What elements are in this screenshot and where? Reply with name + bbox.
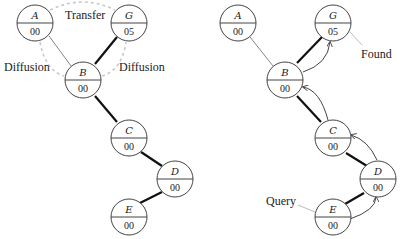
- node-label: D: [373, 166, 382, 177]
- node-a: A 00: [17, 5, 53, 41]
- node-value: 00: [30, 26, 40, 37]
- diffusion-right-label: Diffusion: [119, 60, 165, 74]
- diagram-canvas: A 00 G 05 B 00 C 00 D 00: [0, 0, 401, 239]
- node-value: 05: [124, 26, 134, 37]
- node-c: C 00: [315, 120, 351, 156]
- node-value: 00: [170, 182, 180, 193]
- node-label: C: [125, 125, 133, 136]
- node-e: E 00: [111, 199, 147, 235]
- edge-d-e: [345, 193, 364, 204]
- left-diagram: A 00 G 05 B 00 C 00 D 00: [4, 2, 193, 235]
- node-label: E: [328, 204, 337, 215]
- flow-arrow-d-c: [351, 135, 377, 160]
- node-d: D 00: [360, 161, 396, 197]
- node-value: 05: [328, 26, 338, 37]
- node-value: 00: [124, 220, 134, 231]
- node-e: E 00: [315, 199, 351, 235]
- edge-g-b: [297, 37, 322, 63]
- right-diagram: A 00 G 05 B 00 C 00 D 00: [220, 5, 396, 235]
- node-value: 00: [373, 182, 383, 193]
- node-label: C: [329, 125, 337, 136]
- edge-b-c: [95, 96, 117, 122]
- found-label: Found: [361, 47, 392, 61]
- flow-arrow-e-d: [350, 197, 376, 219]
- node-value: 00: [124, 141, 134, 152]
- node-value: 00: [78, 83, 88, 94]
- edge-a-b: [250, 37, 273, 66]
- node-label: A: [233, 10, 241, 21]
- node-g: G 05: [315, 5, 351, 41]
- edge-c-d: [141, 152, 162, 166]
- transfer-label: Transfer: [65, 8, 105, 22]
- node-label: G: [125, 10, 133, 21]
- found-leader-line: [350, 32, 362, 45]
- node-label: G: [329, 10, 337, 21]
- query-leader-line: [298, 205, 315, 212]
- edge-g-b: [95, 37, 117, 64]
- edge-b-c: [297, 96, 321, 122]
- node-value: 00: [233, 26, 243, 37]
- node-c: C 00: [111, 120, 147, 156]
- node-d: D 00: [157, 161, 193, 197]
- node-b: B 00: [267, 62, 303, 98]
- edge-c-d: [346, 153, 367, 166]
- node-label: D: [170, 166, 179, 177]
- edge-a-b: [49, 36, 71, 66]
- node-value: 00: [280, 83, 290, 94]
- node-b: B 00: [65, 62, 101, 98]
- node-value: 00: [328, 220, 338, 231]
- node-label: B: [280, 67, 288, 78]
- node-label: A: [30, 10, 38, 21]
- flow-arrow-b-g: [303, 42, 330, 72]
- node-label: E: [124, 204, 133, 215]
- node-value: 00: [328, 141, 338, 152]
- node-g: G 05: [111, 5, 147, 41]
- node-a: A 00: [220, 5, 256, 41]
- query-label: Query: [266, 194, 296, 208]
- node-label: B: [78, 67, 86, 78]
- edge-d-e: [140, 192, 162, 203]
- diffusion-left-label: Diffusion: [4, 60, 50, 74]
